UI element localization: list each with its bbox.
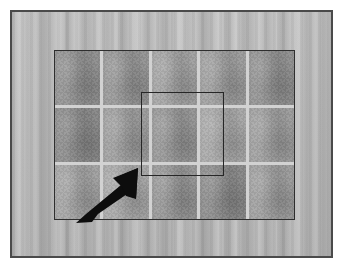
image-canvas: [0, 0, 343, 271]
tile-r2c3: [152, 108, 197, 162]
tile-r1c2: [103, 51, 148, 105]
tile-grid: [55, 51, 294, 219]
tile-r3c1: [55, 165, 100, 219]
tiled-region-outline: [54, 50, 295, 220]
tile-r3c5: [249, 165, 294, 219]
tile-r3c4: [200, 165, 245, 219]
tile-r1c5: [249, 51, 294, 105]
tile-r1c3: [152, 51, 197, 105]
tile-r2c4: [200, 108, 245, 162]
tile-r1c1: [55, 51, 100, 105]
tile-r2c5: [249, 108, 294, 162]
tile-r3c2: [103, 165, 148, 219]
tile-r2c1: [55, 108, 100, 162]
photo-frame: [10, 10, 333, 258]
tile-r1c4: [200, 51, 245, 105]
tile-r3c3: [152, 165, 197, 219]
tile-r2c2: [103, 108, 148, 162]
